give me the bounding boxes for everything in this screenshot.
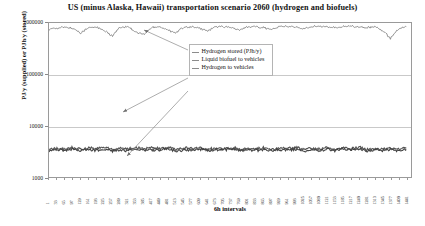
x-tick-label: 65 [61,200,66,204]
x-tick-mark [88,178,89,180]
x-tick-mark [160,178,161,180]
x-tick-mark [176,178,177,180]
chart-title: US (minus Alaska, Hawaii) transportation… [0,3,425,12]
x-tick-mark [48,178,49,180]
x-tick-label: 961 [285,198,290,204]
x-tick-mark [343,178,344,180]
x-tick-label: 865 [261,198,266,204]
x-tick-label: 97 [69,200,74,204]
x-tick-mark [200,178,201,180]
x-tick-label: 257 [109,198,114,204]
x-tick-mark [56,178,57,180]
x-tick-mark [311,178,312,180]
x-tick-mark [112,178,113,180]
x-tick-label: 1185 [340,196,345,204]
x-tick-label: 673 [213,198,218,204]
x-tick-label: 1313 [372,196,377,204]
legend-item: Hydrogen stored (PJh/y) [192,48,269,55]
legend-item-label: Liquid biofuel to vehicles [202,56,265,63]
x-tick-mark [319,178,320,180]
x-tick-mark [375,178,376,180]
x-axis-ticks: 1336597129161193225257289321353385417449… [48,178,412,204]
x-tick-mark [256,178,257,180]
x-tick-label: 225 [101,198,106,204]
x-tick-mark [280,178,281,180]
y-tick-label: 10000 [0,123,43,129]
x-tick-mark [248,178,249,180]
x-tick-mark [272,178,273,180]
x-tick-label: 929 [277,198,282,204]
x-tick-mark [80,178,81,180]
x-tick-label: 1 [45,202,50,204]
x-tick-mark [72,178,73,180]
x-tick-label: 641 [205,198,210,204]
x-tick-label: 1249 [356,196,361,204]
x-tick-label: 417 [149,198,154,204]
x-tick-label: 897 [269,198,274,204]
x-tick-label: 1345 [380,196,385,204]
x-tick-label: 129 [77,198,82,204]
x-tick-mark [208,178,209,180]
x-tick-label: 833 [253,198,258,204]
x-tick-mark [264,178,265,180]
x-tick-mark [303,178,304,180]
x-tick-mark [367,178,368,180]
x-tick-label: 1121 [325,196,330,204]
x-tick-mark [359,178,360,180]
x-tick-label: 1377 [388,196,393,204]
x-tick-mark [168,178,169,180]
y-tick-label: 1000 [0,175,43,181]
x-tick-mark [152,178,153,180]
x-tick-label: 577 [189,198,194,204]
x-tick-label: 737 [229,198,234,204]
chart-container: US (minus Alaska, Hawaii) transportation… [0,0,425,226]
x-tick-label: 609 [197,198,202,204]
x-tick-mark [224,178,225,180]
x-tick-mark [64,178,65,180]
x-tick-mark [335,178,336,180]
x-tick-label: 33 [53,200,58,204]
x-tick-label: 1089 [317,196,322,204]
x-tick-label: 513 [173,198,178,204]
legend-item-label: Hydrogen to vehicles [202,64,254,71]
x-tick-label: 801 [245,198,250,204]
y-tick-label: 1000000 [0,19,43,25]
x-axis-title: 6h intervals [48,205,412,212]
x-tick-mark [295,178,296,180]
x-tick-mark [136,178,137,180]
x-tick-mark [391,178,392,180]
legend-item: Liquid biofuel to vehicles [192,56,269,63]
x-tick-label: 705 [221,198,226,204]
x-tick-label: 1025 [301,196,306,204]
x-tick-label: 161 [85,198,90,204]
x-tick-mark [128,178,129,180]
x-tick-mark [232,178,233,180]
legend-line-icon [192,68,199,69]
x-tick-mark [240,178,241,180]
x-tick-mark [192,178,193,180]
legend-item-label: Hydrogen stored (PJh/y) [202,48,262,55]
x-tick-mark [407,178,408,180]
x-tick-label: 1441 [404,196,409,204]
x-tick-label: 1217 [348,196,353,204]
x-tick-label: 769 [237,198,242,204]
x-tick-label: 449 [157,198,162,204]
x-tick-mark [351,178,352,180]
x-tick-mark [120,178,121,180]
x-tick-label: 1153 [333,196,338,204]
x-tick-label: 385 [141,198,146,204]
legend-line-icon [192,60,199,61]
legend-item: Hydrogen to vehicles [192,64,269,71]
x-tick-mark [399,178,400,180]
legend: Hydrogen stored (PJh/y) Liquid biofuel t… [189,44,273,76]
x-tick-label: 993 [293,198,298,204]
x-tick-mark [383,178,384,180]
series-line [49,25,406,39]
x-tick-label: 1281 [364,196,369,204]
x-tick-label: 289 [117,198,122,204]
x-tick-mark [216,178,217,180]
x-tick-label: 193 [93,198,98,204]
x-tick-mark [184,178,185,180]
x-tick-label: 545 [181,198,186,204]
x-tick-label: 321 [125,198,130,204]
